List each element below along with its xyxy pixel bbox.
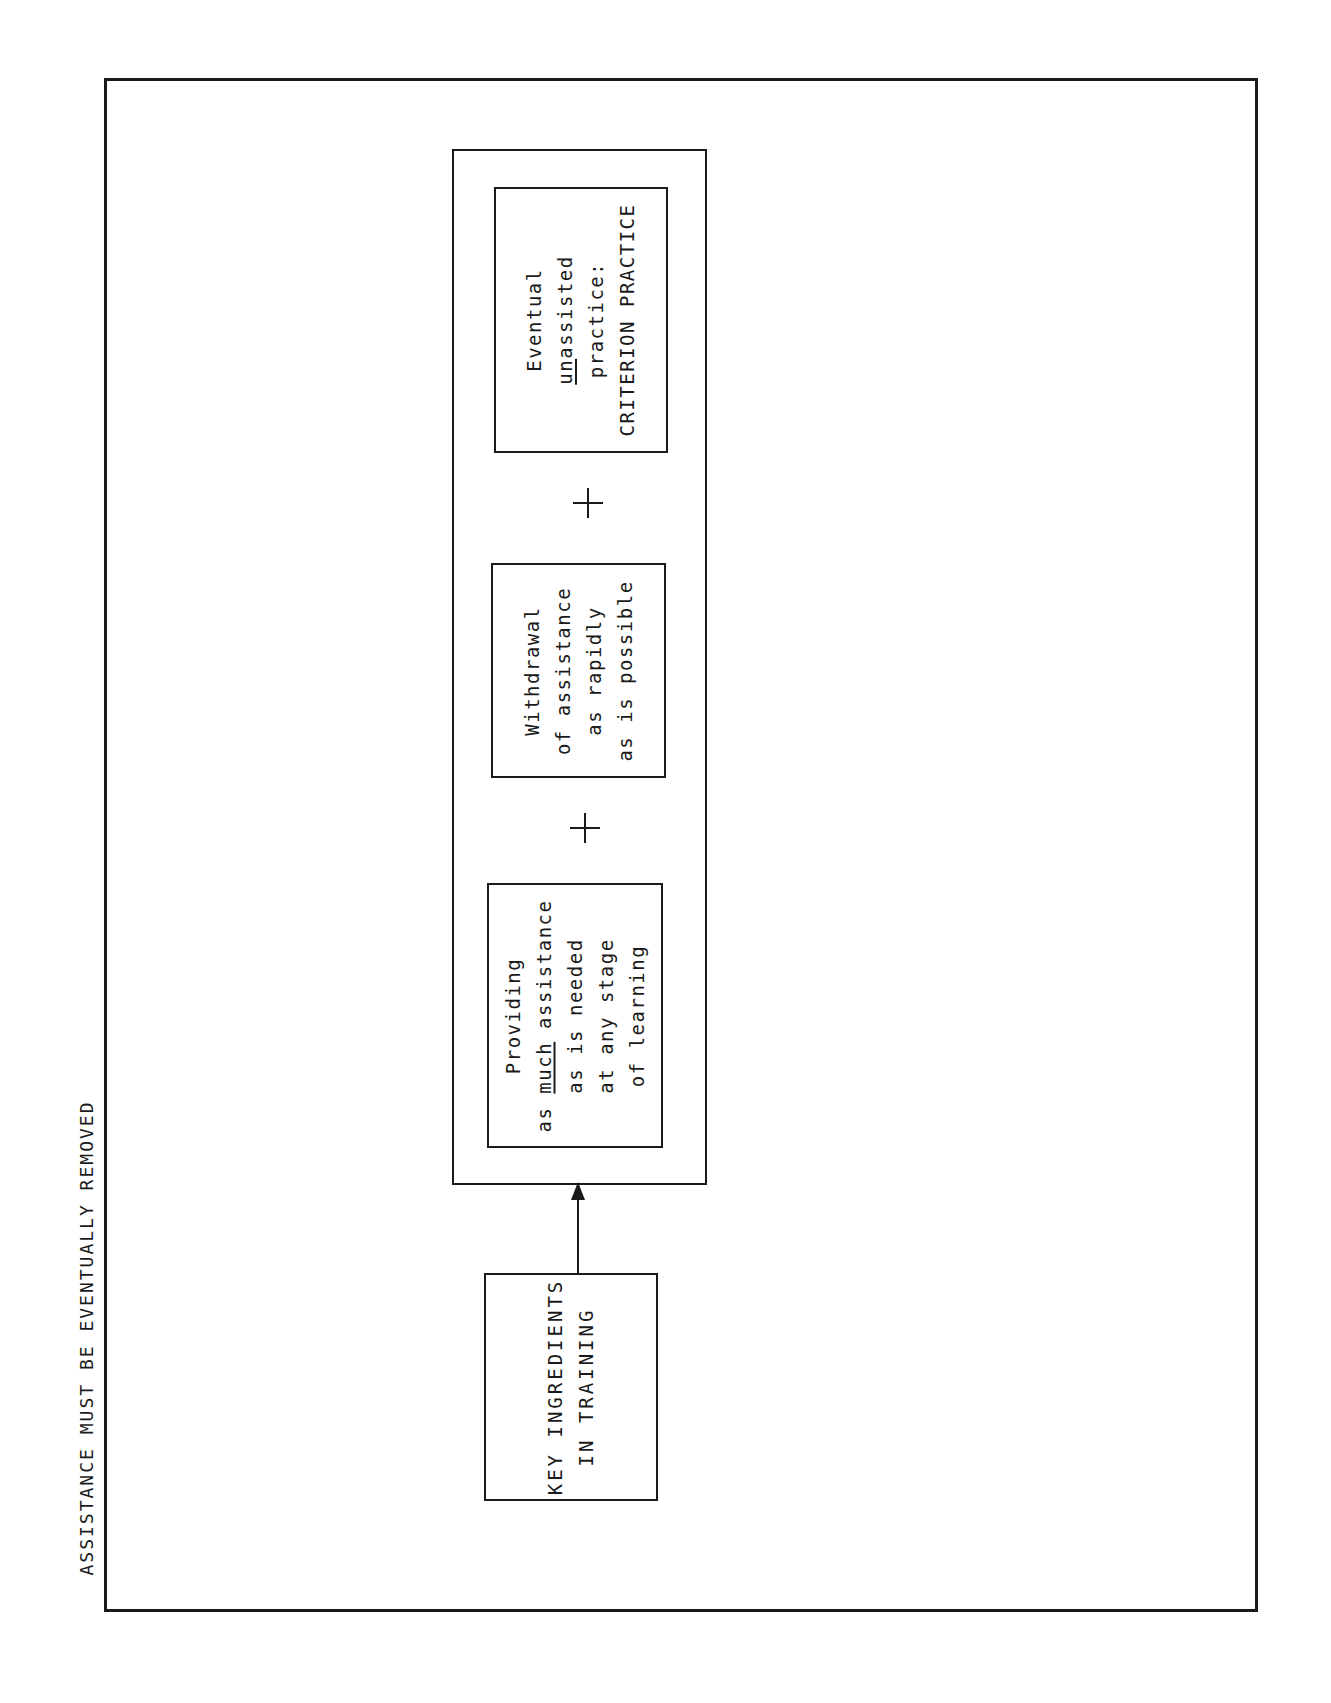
text-line: Eventual: [519, 204, 550, 437]
text-line: Providing: [498, 899, 529, 1132]
side-caption: ASSISTANCE MUST BE EVENTUALLY REMOVED: [76, 1101, 97, 1576]
key-ingredients-text: KEY INGREDIENTS IN TRAINING: [540, 1279, 602, 1496]
ingredient-text: Providing as much assistance as is neede…: [498, 899, 653, 1132]
text-line: as much assistance: [529, 899, 560, 1132]
text-line: at any stage: [591, 899, 622, 1132]
ingredient-text: Withdrawal of assistance as rapidly as i…: [517, 580, 641, 761]
plus-icon: [570, 813, 600, 843]
text-line: as rapidly: [579, 580, 610, 761]
text-suffix: assistance: [533, 899, 555, 1041]
underlined-prefix: un: [554, 359, 576, 385]
text-line: Withdrawal: [517, 580, 548, 761]
text-prefix: as: [533, 1093, 555, 1132]
text-line: as is possible: [610, 580, 641, 761]
text-suffix: assisted: [554, 255, 576, 359]
text-line: unassisted: [550, 204, 581, 437]
text-line: KEY INGREDIENTS: [540, 1279, 571, 1496]
ingredient-text: Eventual unassisted practice: CRITERION …: [519, 204, 643, 437]
ingredient-box-criterion-practice: Eventual unassisted practice: CRITERION …: [494, 187, 668, 453]
ingredient-box-providing-assistance: Providing as much assistance as is neede…: [487, 883, 663, 1148]
text-line: as is needed: [560, 899, 591, 1132]
text-line: practice:: [581, 204, 612, 437]
text-line: IN TRAINING: [571, 1279, 602, 1496]
connector-line: [577, 1196, 579, 1274]
key-ingredients-box: KEY INGREDIENTS IN TRAINING: [484, 1273, 658, 1501]
underlined-word: much: [533, 1041, 555, 1093]
ingredient-box-withdrawal: Withdrawal of assistance as rapidly as i…: [491, 563, 666, 778]
plus-icon: [573, 488, 603, 518]
text-line: of assistance: [548, 580, 579, 761]
text-line: of learning: [622, 899, 653, 1132]
text-line: CRITERION PRACTICE: [612, 204, 643, 437]
